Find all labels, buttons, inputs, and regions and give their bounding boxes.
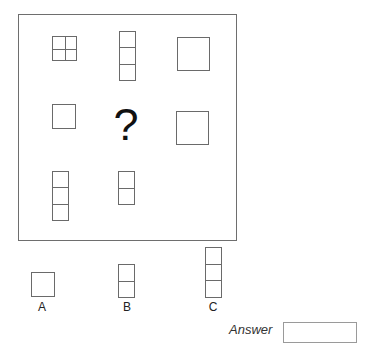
option-b-vertical-stack-2[interactable] bbox=[118, 264, 135, 298]
grid-cell bbox=[53, 37, 65, 49]
grid-cell bbox=[65, 49, 77, 61]
stack-cell bbox=[119, 188, 134, 205]
small-square bbox=[52, 104, 76, 129]
stack-cell bbox=[120, 47, 135, 63]
answer-label: Answer bbox=[229, 322, 272, 338]
grid-square-2x2 bbox=[52, 36, 77, 61]
vertical-stack-3 bbox=[119, 31, 136, 81]
option-c-vertical-stack-3[interactable] bbox=[205, 247, 222, 298]
option-a-small-square[interactable] bbox=[31, 272, 55, 297]
stack-cell bbox=[119, 172, 134, 188]
option-b-label: B bbox=[117, 301, 137, 313]
stack-cell bbox=[53, 204, 68, 220]
option-a-label: A bbox=[32, 301, 52, 313]
grid-cell bbox=[65, 37, 77, 49]
answer-input[interactable] bbox=[283, 322, 357, 343]
vertical-stack-2 bbox=[118, 171, 135, 205]
large-square bbox=[176, 111, 209, 145]
stack-cell bbox=[53, 172, 68, 187]
stack-cell bbox=[119, 281, 134, 298]
vertical-stack-3 bbox=[52, 171, 69, 221]
large-square bbox=[177, 37, 210, 71]
stack-cell bbox=[120, 64, 135, 80]
stack-cell bbox=[206, 248, 221, 264]
stack-cell bbox=[206, 280, 221, 297]
stack-cell bbox=[119, 265, 134, 281]
stack-cell bbox=[120, 32, 135, 47]
stack-cell bbox=[53, 187, 68, 203]
stack-cell bbox=[206, 264, 221, 281]
grid-cell bbox=[53, 49, 65, 61]
missing-item-question-mark: ? bbox=[110, 100, 142, 150]
option-c-label: C bbox=[203, 301, 223, 313]
